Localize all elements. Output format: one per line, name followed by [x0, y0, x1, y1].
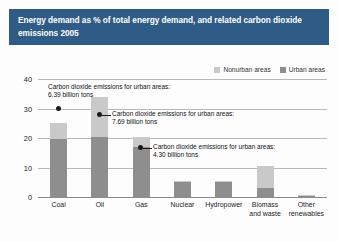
y-tick-20: 20 — [24, 134, 32, 143]
bar-segment-nonurban-biomass-and-waste — [257, 166, 274, 188]
bar-segment-nonurban-coal — [50, 123, 67, 139]
x-label-biomass-line2: and waste — [244, 210, 285, 219]
x-label-oil: Oil — [79, 201, 120, 218]
x-axis-labels: Coal Oil Gas Nuclear Hydropower Biomass … — [38, 201, 327, 218]
chart-title-banner: Energy demand as % of total energy deman… — [9, 9, 329, 45]
x-label-gas: Gas — [121, 201, 162, 218]
annotation-gas: Carbon dioxide emissions for urban areas… — [153, 143, 275, 160]
y-tick-0: 0 — [28, 193, 32, 202]
x-label-nuclear: Nuclear — [162, 201, 203, 218]
x-label-oil-line1: Oil — [79, 201, 120, 210]
annotation-coal: Carbon dioxide emissions for urban areas… — [48, 83, 170, 100]
bar-slot-hydropower — [203, 79, 244, 197]
y-axis: 40 30 20 10 0 — [0, 79, 36, 198]
x-axis-baseline — [38, 197, 327, 198]
y-tick-40: 40 — [24, 75, 32, 84]
legend-item-urban: Urban areas — [280, 66, 325, 73]
legend-label-urban: Urban areas — [289, 66, 325, 73]
bar-segment-urban-nuclear — [174, 182, 191, 197]
x-label-biomass-and-waste: Biomass and waste — [244, 201, 285, 218]
annotation-oil-line1: Carbon dioxide emissions for urban areas… — [112, 110, 234, 118]
bar-segment-urban-other-renewables — [298, 196, 315, 198]
annotation-oil-line2: 7.69 billion tons — [112, 118, 234, 126]
bar-nuclear[interactable] — [174, 181, 191, 197]
legend-item-nonurban: Nonurban areas — [214, 66, 270, 73]
legend-label-nonurban: Nonurban areas — [223, 66, 270, 73]
bar-slot-other-renewables — [286, 79, 327, 197]
page-title: Energy demand as % of total energy deman… — [18, 14, 320, 39]
annotation-oil: Carbon dioxide emissions for urban areas… — [112, 110, 234, 127]
x-label-hydropower-line1: Hydropower — [203, 201, 244, 210]
x-label-hydropower: Hydropower — [203, 201, 244, 218]
bar-coal[interactable] — [50, 123, 67, 197]
chart-figure: Energy demand as % of total energy deman… — [0, 0, 338, 241]
annotation-gas-line2: 4.30 billion tons — [153, 151, 275, 159]
legend-swatch-nonurban-icon — [214, 67, 220, 73]
x-label-gas-line1: Gas — [121, 201, 162, 210]
x-label-other-line1: Other — [286, 201, 327, 210]
x-label-biomass-line1: Biomass — [244, 201, 285, 210]
y-tick-10: 10 — [24, 163, 32, 172]
legend-swatch-urban-icon — [280, 67, 286, 73]
bar-segment-urban-coal — [50, 139, 67, 197]
bar-segment-urban-biomass-and-waste — [257, 188, 274, 197]
bar-segment-urban-hydropower — [215, 182, 232, 197]
annotation-coal-line2: 6.39 billion tons — [48, 91, 170, 99]
bar-biomass-and-waste[interactable] — [257, 166, 274, 197]
plot-area: Carbon dioxide emissions for urban areas… — [38, 79, 327, 198]
annotation-coal-line1: Carbon dioxide emissions for urban areas… — [48, 83, 170, 91]
x-label-coal: Coal — [38, 201, 79, 218]
bar-slot-biomass-and-waste — [244, 79, 285, 197]
x-label-coal-line1: Coal — [38, 201, 79, 210]
x-label-other-line2: renewables — [286, 210, 327, 219]
x-label-other-renewables: Other renewables — [286, 201, 327, 218]
bar-hydropower[interactable] — [215, 181, 232, 197]
annotation-marker-coal — [56, 106, 61, 111]
annotation-leader-gas — [143, 148, 152, 149]
annotation-leader-oil — [102, 115, 111, 116]
bar-segment-urban-oil — [91, 137, 108, 198]
annotation-gas-line1: Carbon dioxide emissions for urban areas… — [153, 143, 275, 151]
chart-legend: Nonurban areas Urban areas — [214, 66, 325, 73]
bar-other-renewables[interactable] — [298, 195, 315, 197]
x-label-nuclear-line1: Nuclear — [162, 201, 203, 210]
bar-segment-urban-gas — [133, 147, 150, 197]
y-tick-30: 30 — [24, 104, 32, 113]
